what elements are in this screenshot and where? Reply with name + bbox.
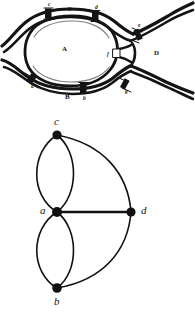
- graph-node-c[interactable]: [52, 130, 61, 139]
- koenigsberg-graph-panel: c a d b: [0, 108, 195, 315]
- graph-edge-ab-left: [37, 212, 57, 288]
- graph-edge-ac-right: [57, 135, 74, 212]
- map-bridge-label-b: b: [83, 96, 86, 102]
- koenigsberg-map-panel: A B C D c d e a b f g: [0, 0, 195, 108]
- graph-edge-cd: [57, 135, 131, 212]
- multigraph-drawing: [0, 108, 195, 315]
- map-bridge-label-a: a: [31, 84, 34, 90]
- graph-node-d[interactable]: [126, 207, 135, 216]
- map-bridge-label-g: g: [125, 89, 128, 95]
- map-bridge-label-e: e: [138, 23, 140, 29]
- map-region-label-B: B: [65, 94, 70, 101]
- map-engraving: [0, 0, 195, 108]
- map-bridge-label-d: d: [95, 5, 98, 11]
- map-bridge-label-c: c: [48, 2, 50, 8]
- graph-edge-ab-right: [57, 212, 74, 288]
- map-region-label-A: A: [62, 46, 67, 53]
- map-bridge-label-f: f: [107, 52, 109, 58]
- graph-node-label-b: b: [54, 296, 60, 307]
- graph-node-a[interactable]: [52, 207, 62, 217]
- graph-node-label-a: a: [40, 205, 46, 216]
- map-region-label-D: D: [154, 50, 159, 57]
- graph-edge-bd: [57, 212, 131, 288]
- graph-edge-ac-left: [37, 135, 57, 212]
- graph-node-label-c: c: [54, 116, 59, 127]
- graph-node-label-d: d: [141, 205, 147, 216]
- map-region-label-C: C: [67, 6, 72, 13]
- figure-root: A B C D c d e a b f g: [0, 0, 195, 315]
- graph-node-b[interactable]: [52, 283, 62, 293]
